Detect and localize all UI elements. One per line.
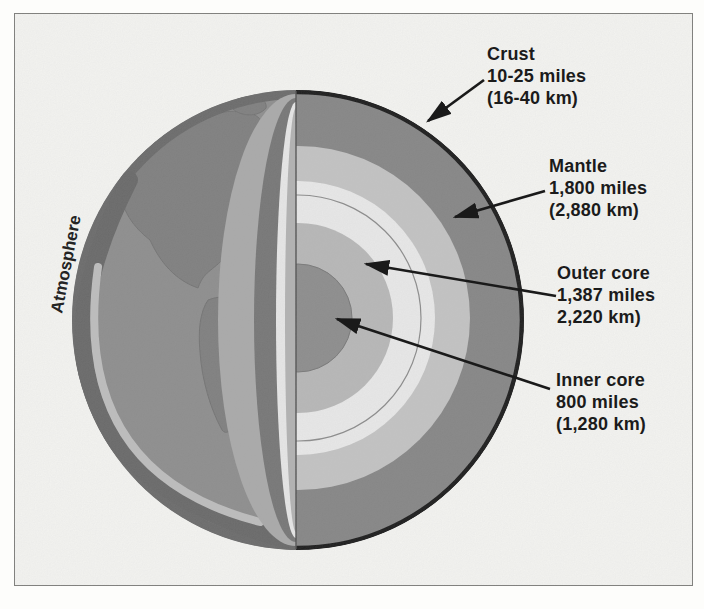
figure: Atmosphere Crust 10-25 miles (16-40 km) … <box>0 0 704 609</box>
outer-core-miles: 1,387 miles <box>557 284 655 306</box>
outer-core-km: 2,220 km) <box>557 306 655 328</box>
inner-core-callout: Inner core 800 miles (1,280 km) <box>556 369 646 435</box>
inner-core-title: Inner core <box>556 369 646 391</box>
crust-miles: 10-25 miles <box>487 65 586 87</box>
crust-title: Crust <box>487 43 586 65</box>
mantle-km: (2,880 km) <box>549 199 647 221</box>
outer-core-title: Outer core <box>557 262 655 284</box>
crust-callout: Crust 10-25 miles (16-40 km) <box>487 43 586 109</box>
mantle-title: Mantle <box>549 155 647 177</box>
crust-km: (16-40 km) <box>487 87 586 109</box>
mantle-miles: 1,800 miles <box>549 177 647 199</box>
inner-core-miles: 800 miles <box>556 391 646 413</box>
inner-core-km: (1,280 km) <box>556 413 646 435</box>
outer-core-callout: Outer core 1,387 miles 2,220 km) <box>557 262 655 328</box>
mantle-callout: Mantle 1,800 miles (2,880 km) <box>549 155 647 221</box>
